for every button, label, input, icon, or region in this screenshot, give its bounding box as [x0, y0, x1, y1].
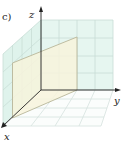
y-axis-label: y: [113, 95, 120, 106]
z-axis-arrow-icon: [39, 6, 43, 12]
z-axis-label: z: [28, 9, 35, 20]
x-axis-label: x: [4, 131, 10, 142]
panel-label: c): [2, 11, 12, 22]
coordinate-diagram: c) z y x: [0, 0, 122, 144]
y-axis-arrow-icon: [115, 88, 121, 92]
